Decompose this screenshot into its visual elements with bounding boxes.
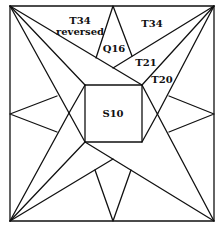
line-center-tl-to-left-point (69, 85, 85, 113)
right-kite (169, 96, 214, 132)
label-t21: T21 (135, 57, 156, 68)
line-tr-to-right-star (158, 6, 214, 113)
line-bl-to-center-bl (10, 142, 85, 221)
line-br-to-center-bl (85, 142, 214, 221)
label-t34-reversed-2: reversed (56, 26, 104, 37)
line-center-br-to-right-point (142, 113, 158, 142)
line-tr-to-mid-top (113, 6, 214, 68)
label-t34: T34 (141, 18, 162, 29)
bottom-kite (95, 170, 131, 221)
label-t34-reversed-1: T34 (69, 15, 90, 26)
label-s10: S10 (102, 108, 123, 119)
line-br-to-center-br (142, 85, 214, 221)
label-q16: Q16 (103, 43, 126, 54)
line-bl-to-left-star (10, 113, 69, 221)
quilt-block-diagram: T34 reversed T34 Q16 T21 T20 S10 (0, 0, 219, 226)
line-bl-to-mid-bottom (10, 159, 113, 221)
label-t20: T20 (151, 74, 172, 85)
left-kite (10, 96, 57, 132)
